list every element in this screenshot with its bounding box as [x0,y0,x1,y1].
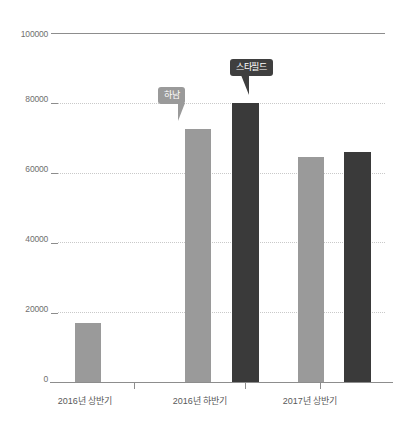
y-axis-label-100000: 100000 [0,29,48,39]
gridline-80000 [58,103,385,104]
y-axis-label-20000: 20000 [0,304,48,314]
y-axis-label-40000: 40000 [0,234,48,244]
bar-starfield-2016-h2[interactable] [232,103,259,382]
gridline-100000 [58,33,385,34]
y-tick-dash-40000 [51,243,58,244]
gridline-20000 [58,312,385,313]
gridline-40000 [58,242,385,243]
y-tick-dash-100000 [51,33,58,34]
x-axis-label-2016-h1: 2016년 상반기 [25,394,145,407]
x-axis-tick-1 [134,382,135,389]
bar-starfield-2017-h1[interactable] [344,152,371,382]
bar-hanam-2016-h1[interactable] [75,323,101,382]
callout-starfield-tail [241,75,249,95]
plot-area [58,33,385,382]
x-axis-line [50,382,393,383]
x-axis-tick-3 [320,382,321,389]
bar-hanam-2017-h1[interactable] [298,157,324,382]
callout-starfield[interactable]: 스타필드 [230,59,273,76]
x-axis-label-2016-h2: 2016년 하반기 [140,394,260,407]
callout-hanam-tail [178,103,185,121]
y-tick-dash-60000 [51,173,58,174]
bar-hanam-2016-h2[interactable] [185,129,211,382]
bar-chart: 100000 80000 60000 40000 20000 0 2016년 상… [0,0,397,433]
callout-hanam[interactable]: 하남 [158,87,185,104]
y-tick-dash-20000 [51,313,58,314]
y-tick-dash-80000 [51,103,58,104]
y-axis-label-0: 0 [0,374,48,384]
x-axis-tick-2 [245,382,246,389]
y-axis-label-60000: 60000 [0,164,48,174]
gridline-60000 [58,173,385,174]
x-axis-label-2017-h1: 2017년 상반기 [250,394,370,407]
y-axis-label-80000: 80000 [0,94,48,104]
